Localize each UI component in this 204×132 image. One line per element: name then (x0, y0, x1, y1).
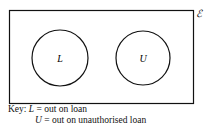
universal-set-rectangle (10, 11, 194, 104)
key-symbol-l: L (29, 104, 34, 114)
set-u-label: U (139, 53, 147, 64)
universal-set-symbol: ℰ (196, 8, 203, 19)
set-l-label: L (56, 53, 63, 64)
key-row-u: U = out on unauthorised loan (8, 115, 146, 126)
key-text-l: = out on loan (37, 104, 87, 114)
key-text-u: = out on unauthorised loan (44, 115, 146, 125)
key-row-l: Key: L = out on loan (8, 104, 146, 115)
key-symbol-u: U (35, 115, 42, 125)
key-legend: Key: L = out on loan U = out on unauthor… (8, 104, 146, 126)
key-prefix: Key: (8, 104, 26, 114)
